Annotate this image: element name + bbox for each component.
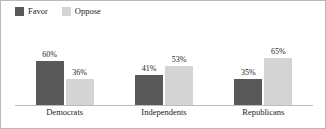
bar-value-democrats-favor: 60% [42,51,57,59]
bar-group-republicans: 35% 65% [234,21,292,105]
legend-entry-favor: Favor [15,7,48,16]
category-label-republicans: Republicans [234,108,292,117]
bar-democrats-favor [36,61,64,105]
bar-republicans-oppose [264,58,292,105]
chart-legend: Favor Oppose [15,5,101,17]
bar-value-independents-oppose: 53% [172,56,187,64]
bar-slot-democrats-oppose: 36% [66,21,94,105]
bar-slot-independents-oppose: 53% [165,21,193,105]
legend-swatch-oppose [62,7,71,16]
category-label-democrats: Democrats [36,108,94,117]
legend-label-oppose: Oppose [75,7,101,16]
category-label-independents: Independents [135,108,193,117]
bar-value-republicans-oppose: 65% [271,48,286,56]
bar-value-democrats-oppose: 36% [72,69,87,77]
bar-independents-favor [135,75,163,105]
plot-area: 60% 36% 41% 53% [1,21,325,106]
bar-slot-independents-favor: 41% [135,21,163,105]
bar-republicans-favor [234,79,262,105]
legend-entry-oppose: Oppose [62,7,101,16]
bar-independents-oppose [165,66,193,105]
bar-slot-republicans-oppose: 65% [264,21,292,105]
bar-value-independents-favor: 41% [142,65,157,73]
category-axis: Democrats Independents Republicans [15,108,313,117]
bar-slot-democrats-favor: 60% [36,21,64,105]
bar-group-democrats: 60% 36% [36,21,94,105]
bar-value-republicans-favor: 35% [241,69,256,77]
bar-groups: 60% 36% 41% 53% [15,21,313,105]
legend-label-favor: Favor [28,7,48,16]
legend-swatch-favor [15,7,24,16]
grouped-bar-chart: Favor Oppose 60% 36% 41 [0,0,326,129]
axis-baseline [15,105,313,106]
bar-group-independents: 41% 53% [135,21,193,105]
bar-slot-republicans-favor: 35% [234,21,262,105]
bar-democrats-oppose [66,79,94,105]
